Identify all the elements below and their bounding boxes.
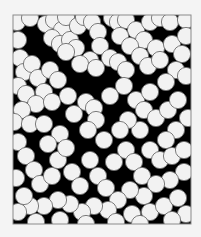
disk [177, 67, 194, 84]
disk [21, 9, 38, 26]
disk [157, 73, 174, 90]
disk [5, 113, 22, 130]
disk [71, 177, 88, 194]
disk [157, 131, 174, 148]
disk [161, 13, 178, 30]
disk-packing-svg [0, 0, 201, 237]
disk [59, 87, 76, 104]
disk [177, 27, 194, 44]
disk [115, 77, 132, 94]
disk [49, 71, 66, 88]
disk [9, 31, 26, 48]
disk [169, 189, 186, 206]
disk [43, 93, 60, 110]
disk-packing-figure [0, 0, 201, 237]
disk [87, 59, 104, 76]
disk [57, 43, 74, 60]
disk [175, 141, 192, 158]
disk [169, 91, 186, 108]
disk [81, 151, 98, 168]
disk [27, 213, 44, 230]
disk [141, 83, 158, 100]
disk [111, 121, 128, 138]
disk [173, 45, 190, 62]
disk [35, 115, 52, 132]
disk [151, 51, 168, 68]
disk [9, 203, 26, 220]
disk [117, 61, 134, 78]
disk [43, 167, 60, 184]
disk [177, 11, 194, 28]
disk [51, 211, 68, 228]
disk [57, 139, 74, 156]
disk [71, 55, 88, 72]
disk [39, 135, 56, 152]
disk [163, 211, 180, 228]
disk [79, 121, 96, 138]
disk [107, 213, 124, 230]
disk [7, 169, 24, 186]
disk [95, 131, 112, 148]
disk [15, 187, 32, 204]
